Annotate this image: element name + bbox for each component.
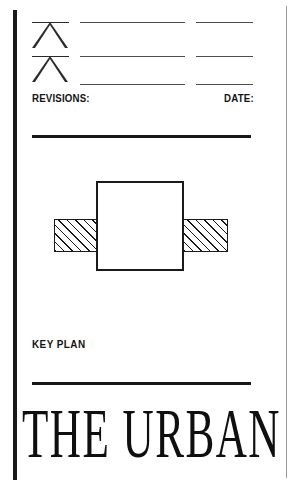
revision-date-line-2[interactable] <box>196 56 253 57</box>
project-title: THE URBAN <box>22 398 282 488</box>
key-plan-diagram: KEY PLAN <box>0 150 299 360</box>
key-plan-label: KEY PLAN <box>32 338 85 350</box>
revision-description-line-3[interactable] <box>80 84 185 85</box>
key-plan-right-wing <box>183 219 228 252</box>
revisions-label-row: REVISIONS: DATE: <box>32 92 254 104</box>
revisions-label: REVISIONS: <box>32 92 90 104</box>
project-title-text: THE URBAN <box>22 398 209 469</box>
title-divider <box>32 382 251 385</box>
revision-date-line-1[interactable] <box>196 22 253 23</box>
revision-description-line-2[interactable] <box>80 56 185 57</box>
revision-triangle-2[interactable] <box>32 56 68 82</box>
revisions-divider <box>32 135 251 138</box>
key-plan-left-wing <box>54 219 99 252</box>
revision-triangle-1[interactable] <box>32 22 68 48</box>
revision-date-line-3[interactable] <box>196 84 253 85</box>
title-block-sheet: REVISIONS: DATE: KEY PLAN THE URBAN <box>0 0 299 488</box>
revisions-block: REVISIONS: DATE: <box>0 0 299 120</box>
key-plan-center-block <box>96 181 184 271</box>
date-label: DATE: <box>224 92 254 104</box>
revision-description-line-1[interactable] <box>80 22 185 23</box>
